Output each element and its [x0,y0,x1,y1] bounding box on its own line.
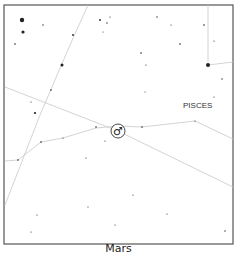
star [34,112,36,114]
star-chart: PISCES ♂ [0,0,237,245]
star [213,96,214,97]
star [61,64,64,67]
star [224,230,225,231]
star [99,19,101,21]
star [20,18,24,22]
mars-marker[interactable]: ♂ [111,124,125,138]
star [106,22,107,23]
star [156,16,157,17]
star [36,214,37,215]
star [14,43,16,45]
star [114,224,115,225]
star [109,16,110,17]
star [42,24,43,25]
star [132,194,133,195]
star [213,40,214,41]
star [140,52,142,54]
chart-caption: Mars [0,242,237,255]
star [50,89,52,91]
star [72,34,74,36]
star [40,141,42,143]
mars-symbol-icon: ♂ [113,125,123,138]
star [194,120,195,121]
star [87,206,88,207]
star [30,101,31,102]
star [166,213,167,214]
star [141,126,143,128]
star [95,126,97,128]
star [17,159,19,161]
star [221,78,222,79]
star [145,64,146,65]
star [179,43,181,45]
star [30,231,31,232]
star [203,24,205,26]
constellation-label: PISCES [183,101,212,110]
star [85,157,86,158]
star [103,32,104,33]
star [104,140,105,141]
star [170,24,171,25]
star [206,63,210,67]
star [145,92,146,93]
star [62,137,63,138]
star [21,30,24,33]
